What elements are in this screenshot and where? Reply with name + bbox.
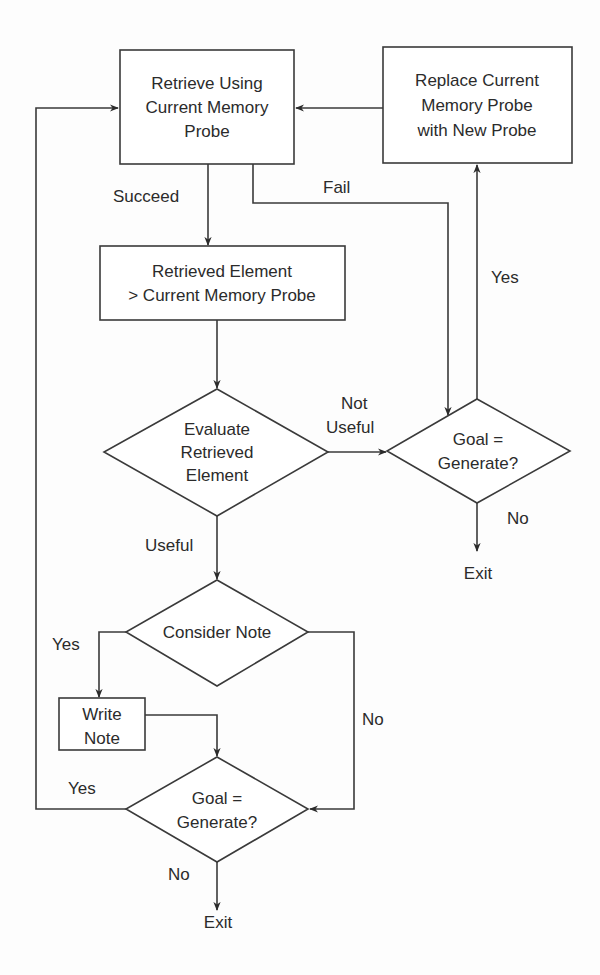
label-no-top: No: [507, 509, 529, 528]
node-replace-line-1: Replace Current: [415, 71, 539, 90]
node-retrieve-line-1: Retrieve Using: [151, 74, 263, 93]
label-succeed: Succeed: [113, 187, 179, 206]
node-consider-note: Consider Note: [126, 580, 308, 686]
node-replace: Replace Current Memory Probe with New Pr…: [383, 47, 572, 163]
label-useful: Useful: [145, 536, 193, 555]
node-replace-line-2: Memory Probe: [421, 96, 532, 115]
node-goal-top-line-1: Goal =: [453, 430, 504, 449]
node-retrieved-element-line-2: > Current Memory Probe: [128, 286, 316, 305]
label-yes-loop: Yes: [68, 779, 96, 798]
node-goal-bottom-line-2: Generate?: [177, 813, 257, 832]
node-retrieve-line-2: Current Memory: [146, 98, 269, 117]
node-retrieve: Retrieve Using Current Memory Probe: [120, 50, 294, 164]
node-goal-top: Goal = Generate?: [387, 399, 570, 503]
node-goal-bottom-line-1: Goal =: [192, 789, 243, 808]
label-yes-write: Yes: [52, 635, 80, 654]
exit-bottom-label: Exit: [204, 913, 233, 932]
node-retrieved-element: Retrieved Element > Current Memory Probe: [100, 246, 345, 320]
edge-write-to-goal: [145, 715, 217, 756]
node-write-note: Write Note: [59, 698, 145, 750]
node-retrieved-element-line-1: Retrieved Element: [152, 262, 292, 281]
exit-top-label: Exit: [464, 564, 493, 583]
label-yes-replace: Yes: [491, 268, 519, 287]
node-write-note-line-2: Note: [84, 729, 120, 748]
edge-no-consider: [308, 632, 354, 809]
node-write-note-line-1: Write: [82, 705, 121, 724]
label-no-bottom: No: [168, 865, 190, 884]
node-retrieve-line-3: Probe: [184, 122, 229, 141]
node-consider-note-line-1: Consider Note: [163, 623, 272, 642]
edge-yes-write: [99, 632, 126, 697]
node-replace-line-3: with New Probe: [416, 121, 536, 140]
node-evaluate-line-3: Element: [186, 466, 249, 485]
flowchart-canvas: Retrieve Using Current Memory Probe Repl…: [0, 0, 600, 975]
node-evaluate-line-2: Retrieved: [181, 443, 254, 462]
node-evaluate: Evaluate Retrieved Element: [104, 389, 328, 516]
label-no-consider: No: [362, 710, 384, 729]
flowchart-svg: Retrieve Using Current Memory Probe Repl…: [0, 0, 600, 975]
node-goal-bottom: Goal = Generate?: [126, 757, 308, 862]
node-goal-top-line-2: Generate?: [438, 454, 518, 473]
label-not-useful-line-1: Not: [341, 394, 368, 413]
label-fail: Fail: [323, 178, 350, 197]
label-not-useful-line-2: Useful: [326, 418, 374, 437]
node-evaluate-line-1: Evaluate: [184, 420, 250, 439]
